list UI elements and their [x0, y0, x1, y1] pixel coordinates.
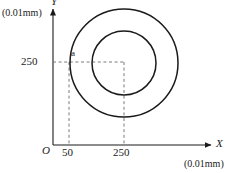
y-axis-label: Y [51, 0, 57, 7]
x-tick-label-50: 50 [62, 147, 73, 158]
x-axis-label: X [216, 138, 223, 149]
origin-label: O [42, 145, 50, 156]
technical-drawing-figure: Y X (0.01mm) (0.01mm) O 250 50 250 a [0, 0, 234, 173]
y-axis-unit-label: (0.01mm) [2, 8, 42, 18]
x-tick-label-250: 250 [113, 147, 130, 158]
y-tick-label-250: 250 [21, 56, 38, 67]
x-axis-unit-label: (0.01mm) [184, 159, 224, 169]
point-a-label: a [71, 49, 75, 58]
